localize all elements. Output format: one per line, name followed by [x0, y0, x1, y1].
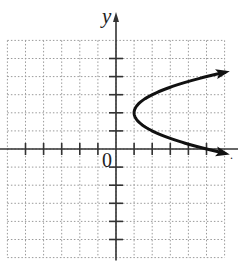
axes [0, 12, 238, 261]
y-axis-label: y [102, 4, 111, 29]
coordinate-plane [0, 0, 238, 275]
trailing-mark: . [230, 148, 233, 163]
origin-label: 0 [102, 149, 112, 172]
